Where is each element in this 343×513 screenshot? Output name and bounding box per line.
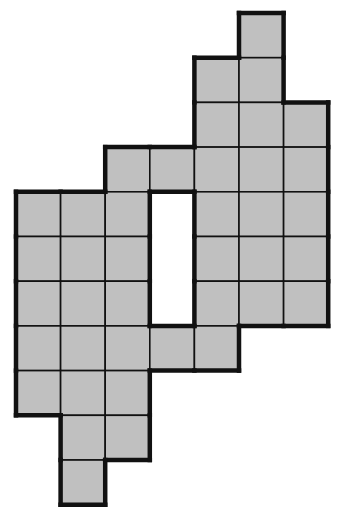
grid-cell xyxy=(16,281,61,326)
grid-cell xyxy=(16,192,61,237)
grid-cell xyxy=(16,237,61,282)
grid-cell xyxy=(16,326,61,371)
polyomino-figure xyxy=(0,0,343,513)
grid-cell xyxy=(61,192,106,237)
grid-cell xyxy=(284,237,329,282)
grid-cell xyxy=(105,326,150,371)
grid-cell xyxy=(239,13,284,58)
grid-cell xyxy=(105,371,150,416)
grid-cell xyxy=(105,281,150,326)
grid-cell xyxy=(239,147,284,192)
grid-cell xyxy=(284,147,329,192)
grid-cell xyxy=(150,326,195,371)
grid-cell xyxy=(105,147,150,192)
grid-cell xyxy=(194,326,239,371)
grid-cell xyxy=(194,58,239,103)
grid-cell xyxy=(239,192,284,237)
grid-cell xyxy=(16,371,61,416)
grid-cell xyxy=(284,102,329,147)
grid-cell xyxy=(61,371,106,416)
grid-cell xyxy=(61,281,106,326)
grid-cell xyxy=(61,326,106,371)
grid-cell xyxy=(194,281,239,326)
grid-cell xyxy=(239,58,284,103)
grid-cell xyxy=(284,281,329,326)
grid-cell xyxy=(105,237,150,282)
grid-cell xyxy=(61,237,106,282)
grid-cell xyxy=(194,192,239,237)
grid-cell xyxy=(284,192,329,237)
grid-cell xyxy=(194,237,239,282)
grid-cell xyxy=(194,102,239,147)
grid-cell xyxy=(61,415,106,460)
grid-cell xyxy=(61,460,106,505)
grid-cell xyxy=(194,147,239,192)
grid-cell xyxy=(105,415,150,460)
grid-cell xyxy=(150,147,195,192)
grid-cell xyxy=(239,281,284,326)
grid-cell xyxy=(239,102,284,147)
grid-cell xyxy=(105,192,150,237)
grid-cell xyxy=(239,237,284,282)
